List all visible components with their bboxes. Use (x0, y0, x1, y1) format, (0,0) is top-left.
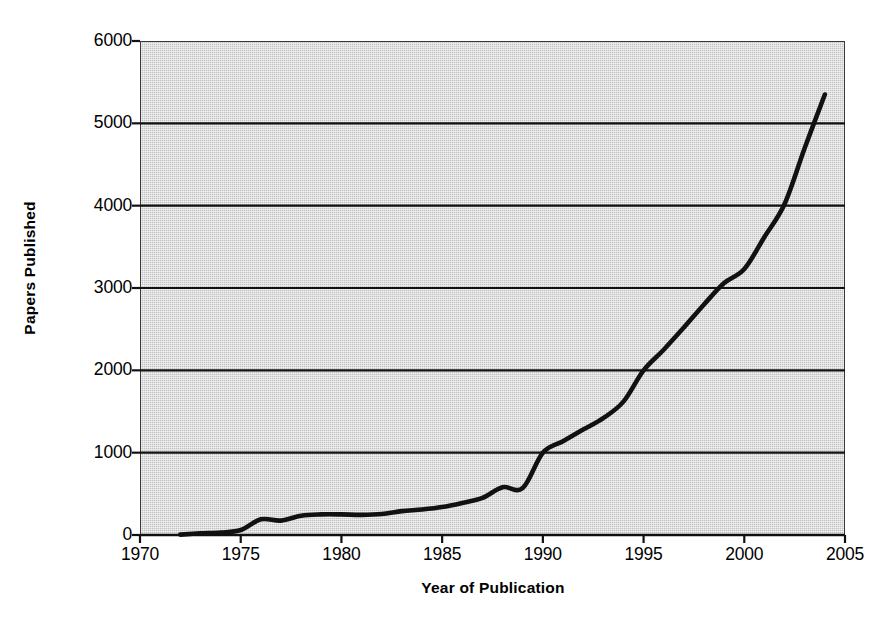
x-tick-label-2000: 2000 (699, 546, 789, 564)
x-tick-label-1995: 1995 (599, 546, 689, 564)
x-tick-label-1990: 1990 (498, 546, 588, 564)
x-tick-label-1980: 1980 (296, 546, 386, 564)
x-axis-tick-labels: 19701975198019851990199520002005 (0, 0, 894, 632)
x-axis-title: Year of Publication (140, 579, 846, 597)
x-tick-label-1975: 1975 (196, 546, 286, 564)
chart-figure: Papers Published 01000200030004000500060… (0, 0, 894, 632)
x-tick-label-1970: 1970 (95, 546, 185, 564)
x-tick-label-2005: 2005 (800, 546, 890, 564)
x-tick-label-1985: 1985 (397, 546, 487, 564)
